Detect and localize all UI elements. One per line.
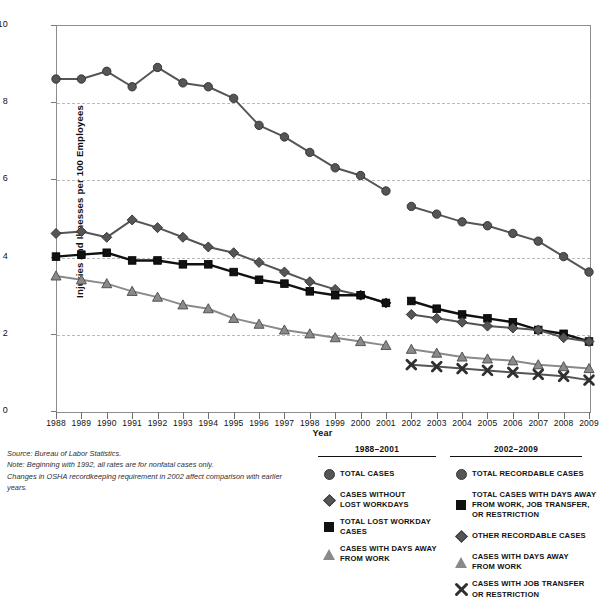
legend-item[interactable]: TOTAL RECORDABLE CASES [450,465,598,483]
legend-left-title: 1988–2001 [318,444,436,457]
data-point-square [154,257,162,265]
footnote-note: Note: Beginning with 1992, all rates are… [7,459,297,470]
diamond-marker-icon [318,491,340,509]
circle-marker-icon [318,465,340,483]
legend-2002-2009: 2002–2009 TOTAL RECORDABLE CASESTOTAL CA… [450,444,598,601]
square-marker-icon [450,496,472,514]
circle-marker-icon [450,465,472,483]
legend-item[interactable]: CASES WITH DAYS AWAY FROM WORK [450,552,598,572]
data-point-square [382,299,390,307]
data-point-circle [128,83,136,91]
data-point-square [281,280,289,288]
data-point-circle [179,79,187,87]
data-point-square [103,249,111,257]
series-1 [51,215,391,308]
data-point-circle [229,94,237,102]
triangle-marker-icon [450,553,472,571]
legend-item-label: TOTAL LOST WORKDAY CASES [340,517,431,537]
data-point-circle [585,268,593,276]
series-3 [51,271,391,350]
data-point-square [357,291,365,299]
legend-1988-2001: 1988–2001 TOTAL CASESCASES WITHOUT LOST … [318,444,448,572]
data-point-diamond [482,321,492,331]
data-series-layer [0,0,603,436]
data-point-circle [331,164,339,172]
data-point-circle [407,202,415,210]
data-point-circle [458,218,466,226]
data-point-square [179,261,187,269]
data-point-circle [255,121,263,129]
series-8 [407,360,593,384]
data-point-diamond [203,242,213,252]
data-point-circle [77,75,85,83]
data-point-diamond [153,223,163,233]
data-point-square [408,297,416,305]
data-point-circle [382,187,390,195]
data-point-circle [52,75,60,83]
triangle-marker-icon [318,545,340,563]
data-point-circle [559,252,567,260]
legend-item[interactable]: CASES WITHOUT LOST WORKDAYS [318,490,448,510]
footnote-source: Source: Bureau of Labor Statistics. [7,448,297,459]
data-point-diamond [279,267,289,277]
data-point-square [52,253,60,261]
footnote-changes: Changes in OSHA recordkeeping requiremen… [7,471,297,494]
data-point-square [306,288,314,296]
data-point-square [204,261,212,269]
data-point-square [78,251,86,259]
data-point-diamond [305,277,315,287]
data-point-circle [356,171,364,179]
legend-item[interactable]: CASES WITH DAYS AWAY FROM WORK [318,544,448,564]
data-point-square [128,257,136,265]
data-point-circle [103,67,111,75]
legend-right-items: TOTAL RECORDABLE CASESTOTAL CASES WITH D… [450,465,598,600]
data-point-circle [534,237,542,245]
legend-item[interactable]: TOTAL CASES [318,465,448,483]
legend-item-label: CASES WITH DAYS AWAY FROM WORK [472,552,569,572]
data-point-circle [153,63,161,71]
legend-item[interactable]: TOTAL CASES WITH DAYS AWAY FROM WORK, JO… [450,490,598,520]
data-point-circle [306,148,314,156]
data-point-circle [509,229,517,237]
data-point-circle [483,222,491,230]
data-point-square [433,305,441,313]
data-point-square [255,276,263,284]
legend-item[interactable]: OTHER RECORDABLE CASES [450,527,598,545]
data-point-square [331,291,339,299]
chart-plot-area: Injuries and Illnesses per 100 Employees… [0,0,603,436]
diamond-marker-icon [450,527,472,545]
data-point-square [230,268,238,276]
series-line [56,67,386,191]
data-point-circle [280,133,288,141]
data-point-diamond [76,227,86,237]
data-point-diamond [51,228,61,238]
footnotes: Source: Bureau of Labor Statistics. Note… [7,448,297,493]
data-point-circle [433,210,441,218]
data-point-diamond [254,257,264,267]
x-marker-icon [450,581,472,599]
data-point-diamond [457,317,467,327]
legend-item-label: TOTAL RECORDABLE CASES [472,469,584,479]
data-point-diamond [406,310,416,320]
legend-item[interactable]: TOTAL LOST WORKDAY CASES [318,517,448,537]
legend-item-label: TOTAL CASES WITH DAYS AWAY FROM WORK, JO… [472,490,596,520]
series-0 [52,63,390,195]
square-marker-icon [318,518,340,536]
series-6 [406,310,594,347]
legend-right-title: 2002–2009 [450,444,582,457]
legend-item[interactable]: CASES WITH JOB TRANSFER OR RESTRICTION [450,579,598,599]
legend-left-items: TOTAL CASESCASES WITHOUT LOST WORKDAYSTO… [318,465,448,565]
legend-item-label: CASES WITH JOB TRANSFER OR RESTRICTION [472,579,584,599]
legend-item-label: OTHER RECORDABLE CASES [472,531,586,541]
data-point-diamond [178,232,188,242]
legend-item-label: CASES WITH DAYS AWAY FROM WORK [340,544,437,564]
data-point-diamond [229,248,239,258]
legend-item-label: CASES WITHOUT LOST WORKDAYS [340,490,409,510]
data-point-diamond [432,313,442,323]
series-2 [52,249,390,307]
series-4 [407,202,593,276]
data-point-circle [204,83,212,91]
legend-item-label: TOTAL CASES [340,469,394,479]
